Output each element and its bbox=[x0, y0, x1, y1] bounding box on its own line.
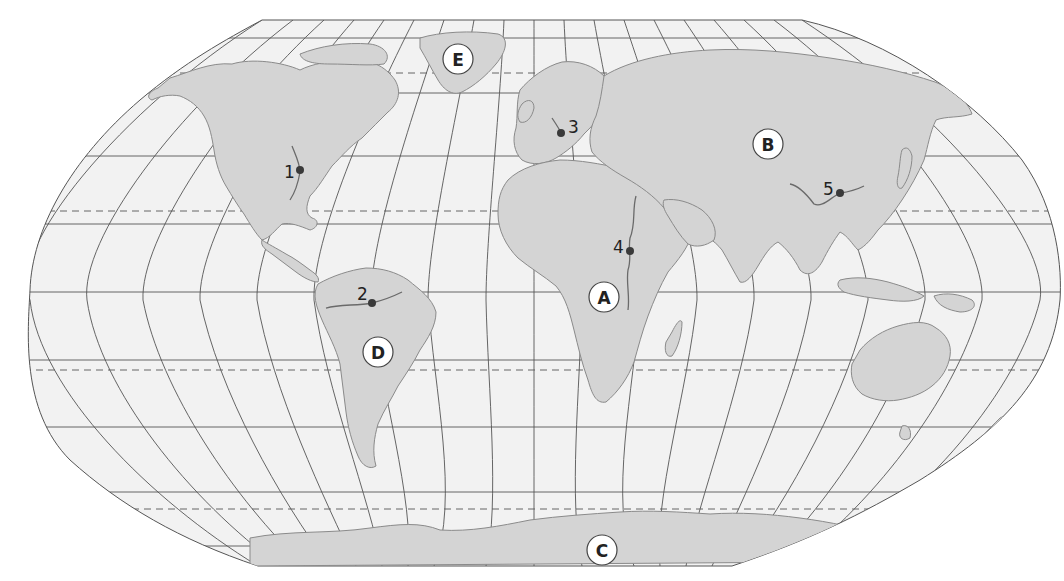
region-label-d[interactable]: D bbox=[363, 337, 393, 367]
region-label-b[interactable]: B bbox=[753, 129, 783, 159]
marker-5-label: 5 bbox=[823, 179, 834, 199]
region-label-b-text: B bbox=[762, 135, 775, 155]
region-label-a[interactable]: A bbox=[589, 282, 619, 312]
region-label-e-text: E bbox=[452, 50, 464, 70]
marker-1-label: 1 bbox=[284, 162, 295, 182]
tasmania bbox=[900, 426, 911, 440]
region-label-c[interactable]: C bbox=[587, 535, 617, 565]
region-label-d-text: D bbox=[371, 343, 385, 363]
marker-5-dot bbox=[836, 189, 844, 197]
marker-2-dot bbox=[368, 299, 376, 307]
region-label-a-text: A bbox=[597, 288, 611, 308]
world-map: 1 2 3 4 5 A B C bbox=[0, 0, 1064, 581]
region-label-c-text: C bbox=[596, 541, 608, 561]
marker-1-dot bbox=[296, 166, 304, 174]
marker-4-dot bbox=[626, 247, 634, 255]
marker-2-label: 2 bbox=[357, 284, 368, 304]
marker-3-dot bbox=[557, 129, 565, 137]
region-label-e[interactable]: E bbox=[443, 44, 473, 74]
marker-4-label: 4 bbox=[613, 237, 624, 257]
marker-3-label: 3 bbox=[568, 117, 579, 137]
